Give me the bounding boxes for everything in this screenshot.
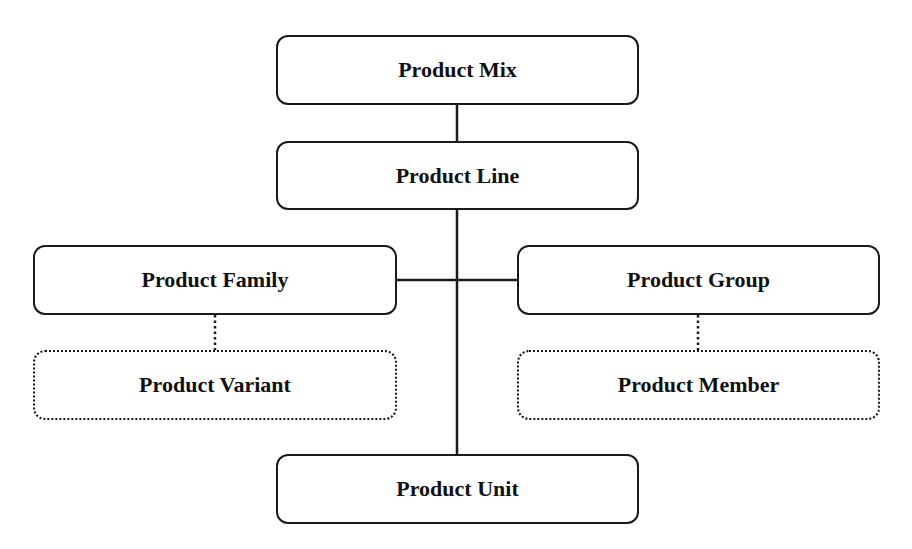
node-product-line: Product Line xyxy=(276,141,639,210)
node-product-group: Product Group xyxy=(517,245,880,315)
node-product-variant: Product Variant xyxy=(33,350,397,420)
node-product-family: Product Family xyxy=(33,245,397,315)
node-product-mix: Product Mix xyxy=(276,35,639,105)
node-product-member: Product Member xyxy=(517,350,880,420)
node-product-unit: Product Unit xyxy=(276,454,639,524)
product-hierarchy-diagram: Product Mix Product Line Product Family … xyxy=(0,0,912,549)
